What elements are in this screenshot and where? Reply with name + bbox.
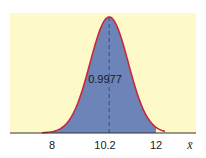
normal-distribution-chart: 0.9977 8 10.2 12 x̄ <box>0 0 206 158</box>
x-tick-label-mean: 10.2 <box>94 139 115 151</box>
x-axis-variable-label: x̄ <box>186 138 193 152</box>
x-tick-label-8: 8 <box>49 139 55 151</box>
x-tick-label-12: 12 <box>150 139 162 151</box>
area-probability-label: 0.9977 <box>88 73 122 85</box>
